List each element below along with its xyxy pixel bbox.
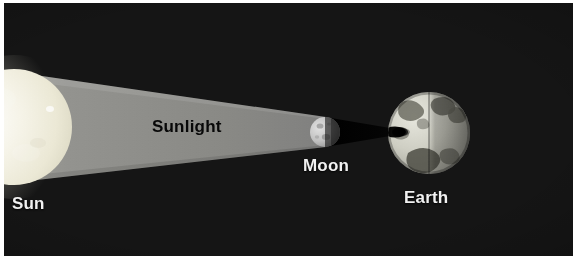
space-background: Sun Sunlight Moon Earth	[4, 3, 573, 256]
sun-body	[4, 55, 86, 199]
label-earth: Earth	[404, 188, 448, 208]
label-sunlight: Sunlight	[152, 117, 222, 137]
eclipse-illustration	[4, 3, 573, 256]
label-moon: Moon	[303, 156, 349, 176]
earth-body	[384, 92, 472, 176]
label-sun: Sun	[12, 194, 45, 214]
eclipse-diagram: Sun Sunlight Moon Earth	[0, 0, 577, 263]
